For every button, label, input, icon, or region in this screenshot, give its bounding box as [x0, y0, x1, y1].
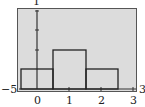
- x-tick-label: 1: [66, 95, 73, 106]
- bar-1: [53, 50, 86, 89]
- x-tick-label: 2: [98, 95, 105, 106]
- x-tick-label: 3: [130, 95, 137, 106]
- histogram-plot: [0, 0, 145, 107]
- ymax-label: 1: [33, 0, 40, 7]
- xmin-label: −5: [1, 84, 17, 95]
- xmax-label: 3: [139, 84, 145, 95]
- x-tick-label: 0: [34, 95, 41, 106]
- bar-2: [86, 69, 118, 89]
